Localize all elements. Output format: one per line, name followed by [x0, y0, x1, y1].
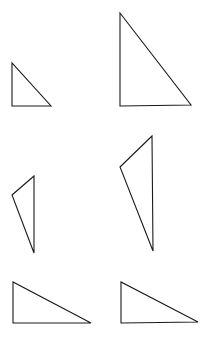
triangle-2-large-right: [120, 13, 191, 106]
triangle-6-wide-right: [121, 282, 198, 323]
triangle-diagram: [0, 0, 208, 341]
triangle-4-large-obtuse: [120, 136, 153, 251]
triangle-diagram-svg: [0, 0, 208, 341]
triangle-3-small-obtuse: [12, 176, 34, 253]
triangle-1-small-right: [12, 63, 51, 106]
triangle-5-wide-right: [13, 282, 91, 323]
